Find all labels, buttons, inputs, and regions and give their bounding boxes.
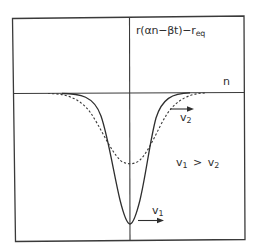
relation-right-subscript: 2	[214, 161, 219, 170]
relation-operator: >	[193, 156, 202, 169]
dashed-pulse-curve-v2	[48, 93, 206, 164]
velocity-label-v2: v2	[180, 112, 192, 125]
v2-subscript: 2	[187, 116, 192, 125]
soliton-profile-diagram	[0, 0, 256, 249]
v1-subscript: 1	[159, 209, 164, 218]
velocity-arrow-v1	[138, 218, 164, 224]
velocity-relation-label: v1 > v2	[176, 157, 219, 170]
solid-pulse-curve-v1	[62, 93, 190, 224]
x-axis-label: n	[223, 76, 230, 87]
plot-frame	[13, 16, 246, 242]
relation-left-subscript: 1	[183, 161, 188, 170]
y-axis-label-text: r(αn−βt)−r	[136, 24, 196, 37]
y-axis-label-subscript: eq	[196, 29, 205, 38]
velocity-label-v1: v1	[152, 205, 164, 218]
horizontal-axis	[13, 93, 244, 94]
y-axis-label: r(αn−βt)−req	[136, 25, 205, 38]
vertical-axis	[130, 17, 131, 241]
